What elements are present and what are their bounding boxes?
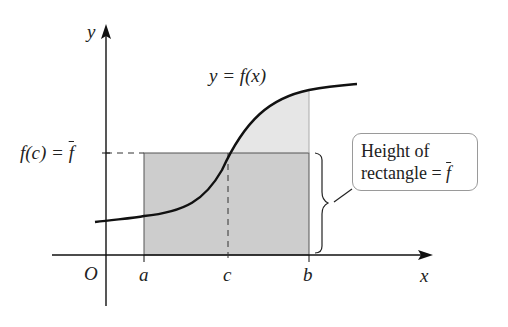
tick-label-a: a: [139, 265, 149, 284]
curve-label: y = f(x): [209, 66, 266, 85]
y-axis-label: y: [87, 22, 95, 41]
callout-line-1: Height of: [361, 140, 477, 162]
fbar-axis-label: f(c) = f: [20, 143, 74, 162]
brace-icon: [315, 153, 328, 253]
origin-label: O: [84, 264, 98, 283]
callout-leader: [334, 189, 352, 202]
tick-label-c: c: [223, 265, 231, 284]
callout-line-2: rectangle = f: [361, 162, 477, 184]
average-value-rectangle: [144, 153, 309, 255]
tick-label-b: b: [303, 265, 313, 284]
height-callout: Height of rectangle = f: [352, 133, 478, 191]
x-axis-label: x: [420, 266, 428, 285]
